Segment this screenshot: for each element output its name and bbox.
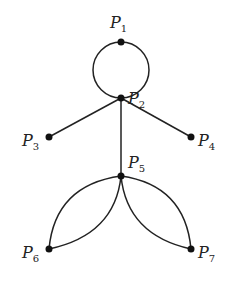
vertex-p3 xyxy=(46,134,53,141)
graph-svg: P1P2P3P4P5P6P7 xyxy=(0,0,229,285)
label-p2: P2 xyxy=(127,89,145,110)
vertex-p1 xyxy=(118,39,125,46)
vertex-p7 xyxy=(188,246,195,253)
edge-loop-p1-p2 xyxy=(93,42,149,98)
edge-p2-p3 xyxy=(49,98,121,137)
edge-p5-p6-outer xyxy=(49,176,121,249)
vertex-p4 xyxy=(188,134,195,141)
label-p4: P4 xyxy=(197,131,215,152)
edge-p5-p7-outer xyxy=(121,176,191,249)
label-p7: P7 xyxy=(197,243,215,264)
edges xyxy=(49,42,191,249)
label-p5: P5 xyxy=(127,153,145,174)
label-p3: P3 xyxy=(21,131,39,152)
vertex-p2 xyxy=(118,95,125,102)
vertices xyxy=(46,39,195,253)
vertex-p5 xyxy=(118,173,125,180)
label-p6: P6 xyxy=(21,243,39,264)
graph-diagram: P1P2P3P4P5P6P7 xyxy=(0,0,229,285)
label-p1: P1 xyxy=(109,13,127,34)
vertex-p6 xyxy=(46,246,53,253)
